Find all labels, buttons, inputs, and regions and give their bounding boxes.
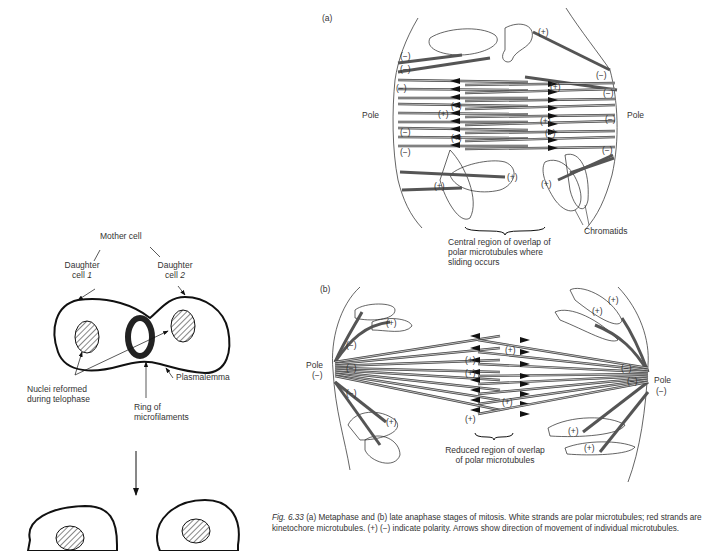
plus-sign: (+) (545, 128, 556, 138)
movement-arrow (470, 407, 480, 413)
plus-sign: (+) (434, 181, 445, 191)
plus-sign: (+) (465, 355, 476, 365)
plus-sign: (+) (451, 133, 462, 143)
ring-of-microfilaments (128, 318, 152, 356)
overlap-brace-b (475, 433, 513, 440)
movement-arrow (470, 333, 480, 339)
panel-a-metaphase (393, 8, 617, 235)
panel-b-pole-right-sign: (−) (656, 386, 667, 396)
pointer-daughter2 (178, 286, 185, 295)
plus-sign: (+) (386, 318, 397, 328)
movement-arrow (548, 97, 558, 103)
pointer-nuclei (75, 352, 82, 375)
minus-sign: (−) (596, 70, 607, 80)
plus-sign: (+) (505, 345, 516, 355)
plus-sign: (+) (465, 368, 476, 378)
minus-sign: (−) (346, 340, 357, 350)
overlap-brace-a (465, 227, 545, 235)
caption-text: (a) Metaphase and (b) late anaphase stag… (272, 513, 702, 533)
figure-number: Fig. 6.33 (272, 513, 304, 522)
plus-sign: (+) (584, 443, 595, 453)
panel-a-pole-right: Pole (627, 110, 644, 120)
movement-arrow (450, 126, 460, 132)
overlap-note-b: Reduced region of overlap of polar micro… (445, 445, 545, 465)
minus-sign: (−) (627, 376, 638, 386)
plus-sign: (+) (568, 426, 579, 436)
daughter-cell-1-label: Daughter cell 1 (60, 260, 104, 280)
nucleus-2 (171, 310, 195, 342)
panel-a-pole-left: Pole (362, 110, 379, 120)
nuclei-label: Nuclei reformed during telophase (27, 384, 90, 404)
movement-arrow (450, 78, 460, 84)
polar-microtubules-b (335, 333, 648, 417)
movement-arrow (520, 411, 530, 417)
plus-sign: (+) (550, 82, 561, 92)
minus-sign: (−) (396, 83, 407, 93)
minus-sign: (−) (346, 363, 357, 373)
plus-sign: (+) (451, 101, 462, 111)
minus-sign: (−) (400, 51, 411, 61)
ring-label: Ring of microfilaments (134, 402, 189, 422)
chromatids-label: Chromatids (584, 226, 627, 236)
movement-arrow (520, 349, 530, 355)
plus-sign: (+) (507, 172, 518, 182)
plus-sign: (+) (438, 109, 449, 119)
overlap-note-a: Central region of overlap of polar micro… (448, 237, 551, 267)
plus-sign: (+) (608, 295, 619, 305)
movement-arrow (548, 145, 558, 151)
minus-sign: (−) (605, 114, 616, 124)
mitosis-diagram (0, 0, 714, 551)
minus-sign: (−) (400, 127, 411, 137)
pointer-plasmalemma (166, 368, 173, 378)
plus-sign: (+) (541, 179, 552, 189)
movement-arrow (470, 397, 480, 403)
plus-sign: (+) (538, 27, 549, 37)
movement-arrow (520, 373, 530, 379)
movement-arrow (520, 337, 530, 343)
plus-sign: (+) (465, 414, 476, 424)
panel-b-pole-left-sign: (−) (312, 370, 323, 380)
plasmalemma-label: Plasmalemma (176, 372, 230, 382)
minus-sign: (−) (602, 145, 613, 155)
nucleus-1 (75, 321, 99, 353)
plus-sign: (+) (386, 417, 397, 427)
minus-sign: (−) (400, 64, 411, 74)
figure-caption: Fig. 6.33 (a) Metaphase and (b) late ana… (272, 513, 712, 534)
plus-sign: (+) (592, 306, 603, 316)
movement-arrow (450, 86, 460, 92)
polar-microtubules-a (398, 78, 615, 151)
panel-b-pole-left: Pole (306, 360, 323, 370)
mother-cell-label: Mother cell (100, 231, 142, 241)
plus-sign: (+) (502, 397, 513, 407)
panel-b-pole-right: Pole (654, 375, 671, 385)
panel-a-label: (a) (322, 13, 332, 23)
daughter-cell-2-label: Daughter cell 2 (153, 260, 197, 280)
plus-sign: (+) (540, 116, 551, 126)
minus-sign: (−) (621, 363, 632, 373)
minus-sign: (−) (346, 388, 357, 398)
panel-b-label: (b) (320, 284, 330, 294)
minus-sign: (−) (400, 147, 411, 157)
minus-sign: (−) (603, 88, 614, 98)
